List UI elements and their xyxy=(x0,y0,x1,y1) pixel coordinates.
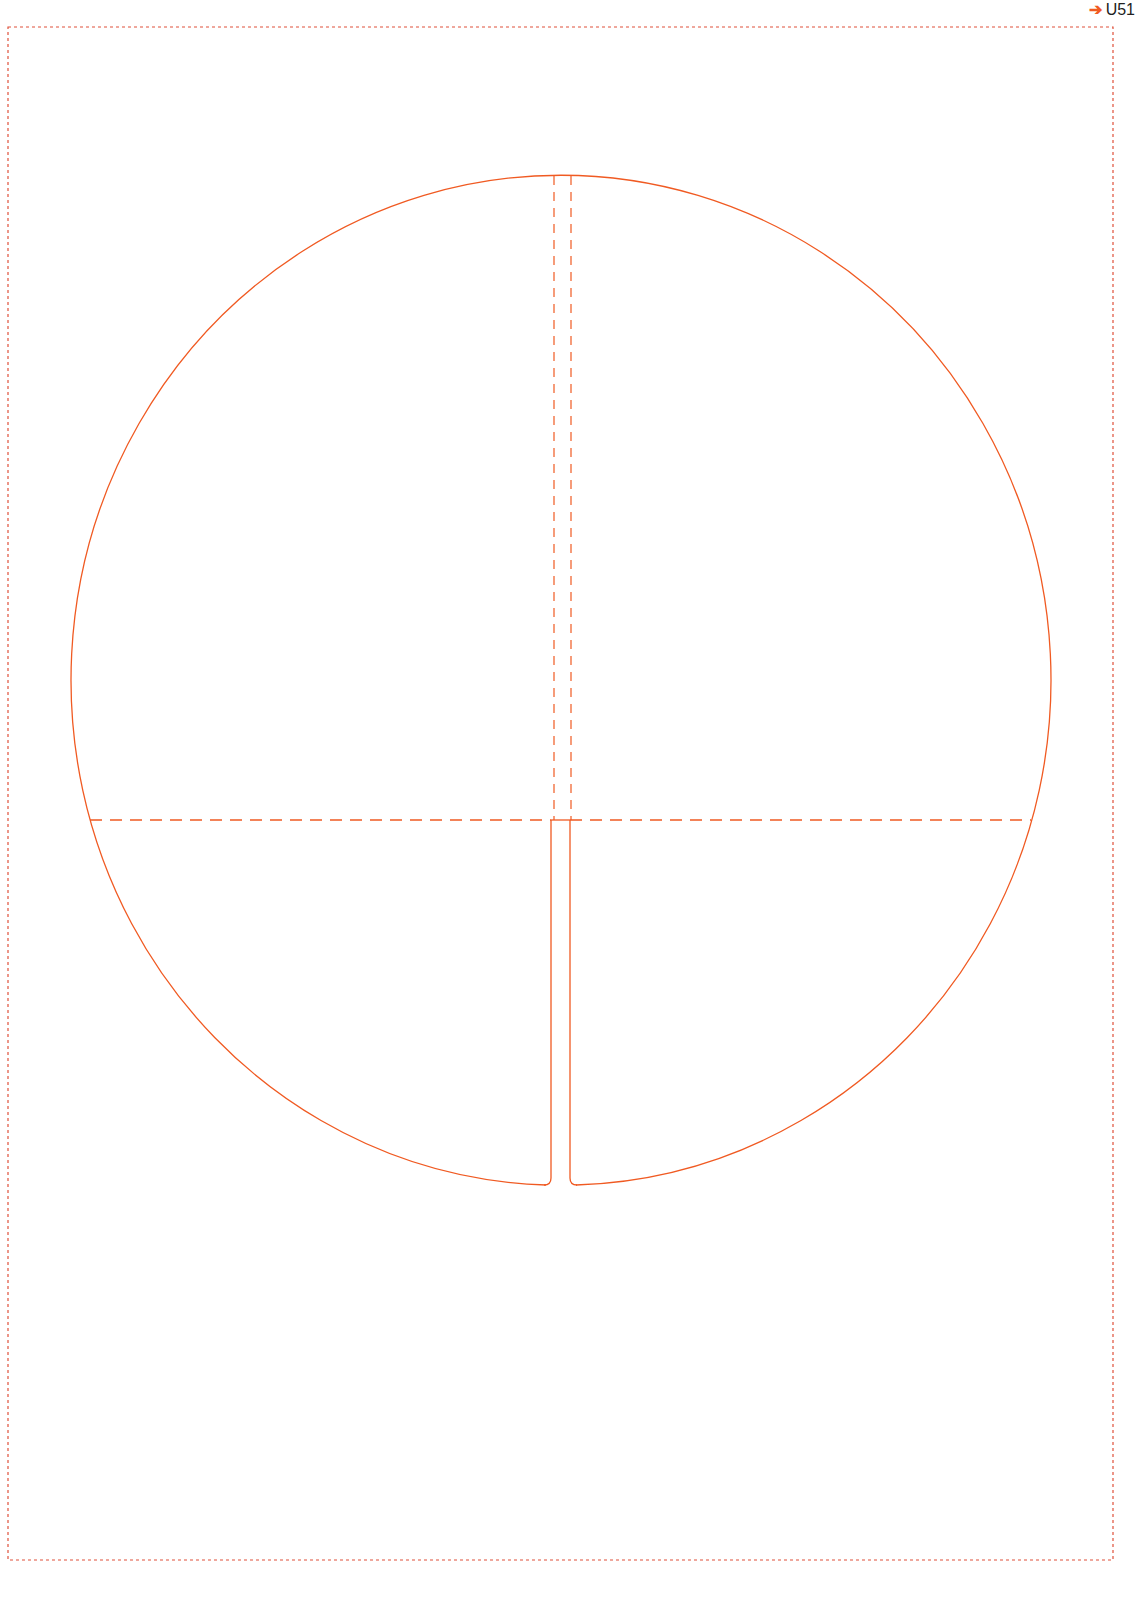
die-cut-diagram xyxy=(0,0,1147,1599)
circle-cut-line xyxy=(71,175,1051,1185)
slot-left-cut-line xyxy=(544,820,551,1185)
page-border xyxy=(8,27,1113,1560)
slot-right-cut-line xyxy=(570,820,577,1185)
